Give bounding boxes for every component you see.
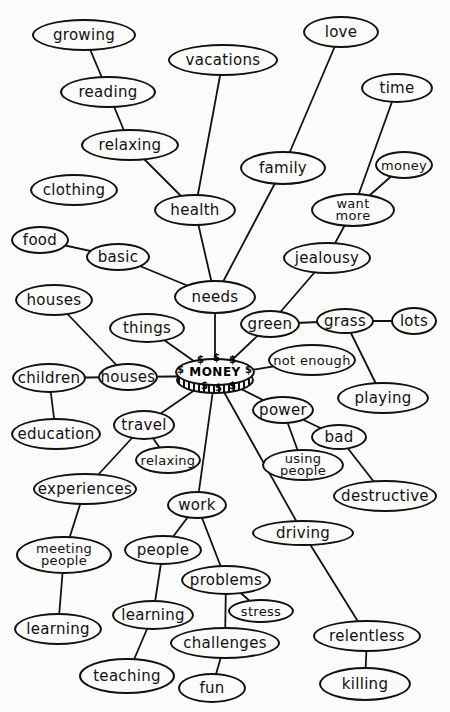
node-power: power: [252, 396, 314, 424]
node-things: things: [109, 313, 185, 343]
node-grass: grass: [316, 308, 374, 334]
dollar-sign-icon: $: [177, 364, 184, 375]
dollar-sign-icon: $: [213, 352, 220, 363]
dollar-sign-icon: $: [197, 354, 204, 365]
node-family: family: [240, 151, 326, 185]
node-money-small: money: [375, 151, 433, 179]
node-work: work: [167, 491, 227, 519]
dollar-sign-icon: $: [215, 382, 222, 393]
node-relentless: relentless: [313, 620, 421, 652]
node-houses-top: houses: [15, 284, 93, 316]
node-experiences: experiences: [33, 473, 137, 505]
node-food: food: [11, 226, 69, 254]
node-using-people: using people: [262, 449, 344, 481]
dollar-sign-icon: $: [229, 380, 236, 391]
dollar-sign-icon: $: [245, 364, 252, 375]
edge-layer: [0, 0, 450, 712]
node-clothing: clothing: [30, 174, 118, 206]
node-green: green: [240, 310, 300, 338]
node-vacations: vacations: [168, 44, 278, 76]
node-love: love: [303, 16, 379, 48]
mind-map-canvas: growingvacationslovereadingtimerelaxingf…: [0, 0, 450, 712]
node-lots: lots: [391, 307, 437, 335]
node-teaching: teaching: [79, 658, 175, 694]
node-people: people: [124, 535, 202, 565]
node-relaxing-top: relaxing: [81, 129, 179, 161]
node-health: health: [154, 194, 236, 226]
node-jealousy: jealousy: [283, 242, 371, 274]
node-playing: playing: [337, 382, 429, 414]
node-education: education: [11, 418, 101, 450]
center-label: MONEY: [189, 365, 241, 379]
node-destructive: destructive: [333, 480, 437, 512]
node-growing: growing: [32, 19, 136, 51]
node-bad: bad: [311, 424, 367, 450]
node-relaxing: relaxing: [135, 446, 201, 474]
node-want-more: want more: [311, 193, 395, 227]
center-node-money-coin: MONEY $$$$$$$$: [175, 358, 255, 394]
node-travel: travel: [113, 410, 175, 440]
edge-vacations-health: [195, 60, 223, 210]
node-learning-left: learning: [14, 613, 102, 645]
node-meeting-people: meeting people: [16, 536, 112, 574]
node-killing: killing: [319, 667, 411, 701]
node-challenges: challenges: [170, 627, 280, 659]
node-time: time: [361, 73, 433, 103]
node-problems: problems: [181, 565, 271, 595]
edge-love-family: [283, 32, 341, 168]
edge-work-center: [197, 376, 215, 505]
edge-family-needs: [215, 168, 283, 297]
node-fun: fun: [178, 673, 246, 703]
dollar-sign-icon: $: [201, 380, 208, 391]
node-houses: houses: [98, 363, 158, 391]
node-stress: stress: [228, 599, 294, 623]
dollar-sign-icon: $: [229, 354, 236, 365]
node-basic: basic: [86, 243, 150, 271]
node-reading: reading: [60, 76, 156, 108]
node-not-enough: not enough: [268, 344, 356, 376]
node-needs: needs: [174, 280, 256, 314]
node-children: children: [12, 363, 86, 393]
node-learning: learning: [112, 600, 194, 630]
node-driving: driving: [252, 520, 354, 546]
